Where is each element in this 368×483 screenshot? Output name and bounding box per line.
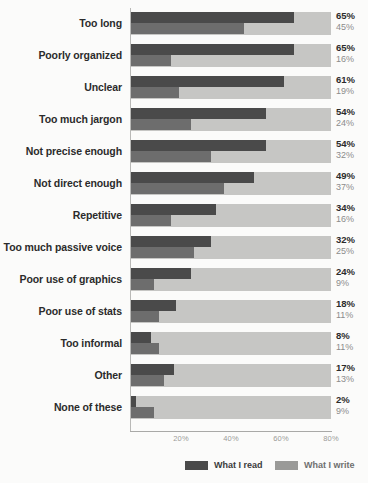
value-labels: 65%16% xyxy=(336,42,368,65)
value-label-read: 24% xyxy=(336,266,368,278)
bar-what-i-read xyxy=(131,76,284,87)
category-label: Repetitive xyxy=(0,204,122,227)
bar-what-i-read xyxy=(131,300,176,311)
value-label-read: 54% xyxy=(336,106,368,118)
chart-row: Not precise enough54%32% xyxy=(0,140,368,172)
legend-item-what-i-write[interactable]: What I write xyxy=(275,458,355,472)
value-labels: 32%25% xyxy=(336,234,368,257)
bar-what-i-read xyxy=(131,172,254,183)
category-label: None of these xyxy=(0,396,122,419)
x-tick-label: 80% xyxy=(311,434,351,443)
value-labels: 34%16% xyxy=(336,202,368,225)
bar-track xyxy=(131,12,331,35)
chart-row: Poor use of stats18%11% xyxy=(0,300,368,332)
value-labels: 2%9% xyxy=(336,394,368,417)
legend-label-write: What I write xyxy=(304,460,355,470)
category-label: Poor use of stats xyxy=(0,300,122,323)
category-label: Too much jargon xyxy=(0,108,122,131)
bar-what-i-write xyxy=(131,183,224,194)
chart-rows: Too long65%45%Poorly organized65%16%Uncl… xyxy=(0,12,368,428)
value-label-read: 17% xyxy=(336,362,368,374)
bar-what-i-read xyxy=(131,396,136,407)
x-axis-ticks: 20%40%60%80% xyxy=(0,434,368,446)
bar-what-i-write xyxy=(131,375,164,386)
x-tick-label: 60% xyxy=(261,434,301,443)
value-label-write: 16% xyxy=(336,214,368,225)
bar-track xyxy=(131,140,331,163)
category-label: Unclear xyxy=(0,76,122,99)
value-labels: 65%45% xyxy=(336,10,368,33)
bar-what-i-write xyxy=(131,311,159,322)
value-labels: 54%24% xyxy=(336,106,368,129)
bar-track xyxy=(131,44,331,67)
category-label: Not direct enough xyxy=(0,172,122,195)
bar-what-i-read xyxy=(131,108,266,119)
x-tick-label: 40% xyxy=(211,434,251,443)
value-label-read: 2% xyxy=(336,394,368,406)
bar-what-i-write xyxy=(131,407,154,418)
value-label-read: 49% xyxy=(336,170,368,182)
bar-what-i-read xyxy=(131,332,151,343)
bar-track xyxy=(131,172,331,195)
value-label-write: 11% xyxy=(336,310,368,321)
value-label-read: 8% xyxy=(336,330,368,342)
value-labels: 8%11% xyxy=(336,330,368,353)
category-label: Too informal xyxy=(0,332,122,355)
bar-what-i-read xyxy=(131,44,294,55)
chart-row: Poor use of graphics24%9% xyxy=(0,268,368,300)
value-label-read: 18% xyxy=(336,298,368,310)
bar-track xyxy=(131,300,331,323)
bar-what-i-write xyxy=(131,247,194,258)
value-label-read: 65% xyxy=(336,42,368,54)
x-axis-line xyxy=(130,431,332,432)
category-label: Too long xyxy=(0,12,122,35)
value-label-write: 37% xyxy=(336,182,368,193)
chart-row: None of these2%9% xyxy=(0,396,368,428)
bar-what-i-write xyxy=(131,23,244,34)
chart-row: Repetitive34%16% xyxy=(0,204,368,236)
bar-what-i-read xyxy=(131,268,191,279)
bar-track xyxy=(131,364,331,387)
value-labels: 54%32% xyxy=(336,138,368,161)
value-label-write: 19% xyxy=(336,86,368,97)
bar-what-i-write xyxy=(131,215,171,226)
category-label: Too much passive voice xyxy=(0,236,122,259)
category-label: Other xyxy=(0,364,122,387)
legend-swatch-write-icon xyxy=(275,461,298,470)
value-label-write: 32% xyxy=(336,150,368,161)
chart-row: Unclear61%19% xyxy=(0,76,368,108)
bar-track xyxy=(131,236,331,259)
value-label-write: 9% xyxy=(336,278,368,289)
bar-what-i-write xyxy=(131,119,191,130)
bar-what-i-write xyxy=(131,343,159,354)
legend-item-what-i-read[interactable]: What I read xyxy=(185,458,263,472)
value-labels: 24%9% xyxy=(336,266,368,289)
chart-row: Too long65%45% xyxy=(0,12,368,44)
value-label-write: 25% xyxy=(336,246,368,257)
value-label-write: 16% xyxy=(336,54,368,65)
bar-track xyxy=(131,332,331,355)
legend-swatch-read-icon xyxy=(185,461,208,470)
value-labels: 18%11% xyxy=(336,298,368,321)
chart-row: Not direct enough49%37% xyxy=(0,172,368,204)
chart-legend: What I read What I write xyxy=(0,458,368,474)
value-label-read: 65% xyxy=(336,10,368,22)
value-labels: 61%19% xyxy=(336,74,368,97)
bar-what-i-read xyxy=(131,12,294,23)
value-label-read: 54% xyxy=(336,138,368,150)
value-label-write: 11% xyxy=(336,342,368,353)
bar-track xyxy=(131,76,331,99)
bar-what-i-write xyxy=(131,55,171,66)
bar-track xyxy=(131,204,331,227)
chart-row: Other17%13% xyxy=(0,364,368,396)
bar-chart: Too long65%45%Poorly organized65%16%Uncl… xyxy=(0,0,368,483)
legend-label-read: What I read xyxy=(214,460,263,470)
value-label-read: 34% xyxy=(336,202,368,214)
category-label: Poorly organized xyxy=(0,44,122,67)
chart-row: Too much jargon54%24% xyxy=(0,108,368,140)
bar-what-i-read xyxy=(131,236,211,247)
value-labels: 49%37% xyxy=(336,170,368,193)
value-labels: 17%13% xyxy=(336,362,368,385)
chart-row: Poorly organized65%16% xyxy=(0,44,368,76)
bar-track xyxy=(131,108,331,131)
